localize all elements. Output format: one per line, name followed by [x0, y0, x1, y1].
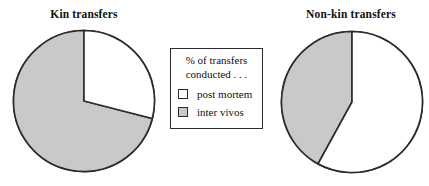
pie-kin-svg	[12, 29, 156, 173]
legend-item-post-mortem: post mortem	[175, 85, 258, 103]
chart-title-non-kin-transfers: Non-kin transfers	[272, 8, 429, 20]
legend-heading-line-2: conducted . . .	[175, 68, 258, 82]
chart-title-kin-transfers: Kin transfers	[0, 8, 168, 20]
pie-chart-figure: Kin transfers Non-kin transfers % of tra…	[0, 0, 429, 186]
legend-label-inter-vivos: inter vivos	[197, 106, 244, 118]
pie-chart-non-kin-transfers	[280, 30, 424, 174]
chart-legend: % of transfers conducted . . . post mort…	[170, 48, 263, 129]
legend-item-list: post mortem inter vivos	[175, 85, 258, 121]
pie-nonkin-svg	[280, 30, 424, 174]
legend-label-post-mortem: post mortem	[197, 88, 252, 100]
gray-square-icon	[178, 107, 188, 117]
pie-chart-kin-transfers	[12, 29, 156, 173]
legend-item-inter-vivos: inter vivos	[175, 103, 258, 121]
legend-heading-line-1: % of transfers	[175, 54, 258, 68]
white-square-icon	[178, 89, 188, 99]
